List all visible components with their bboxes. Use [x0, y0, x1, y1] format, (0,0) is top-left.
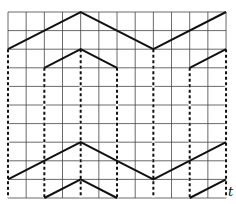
waveform-diagram: t [0, 0, 236, 204]
grid-canvas [0, 0, 236, 204]
time-axis-label: t [228, 184, 233, 199]
